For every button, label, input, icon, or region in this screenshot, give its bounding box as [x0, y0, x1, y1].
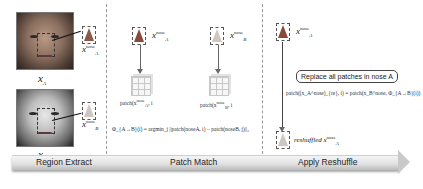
nose-a-shape — [84, 28, 94, 41]
stage-label-patch-match: Patch Match — [170, 157, 217, 167]
reshuffle-nose-source — [276, 23, 290, 41]
nose-a-label: xnoseA — [82, 44, 98, 56]
face-a-mouth — [38, 55, 52, 57]
nose-b-to-patch-arrow — [218, 45, 219, 70]
face-image-b — [16, 89, 74, 147]
face-b-mouth — [38, 132, 52, 134]
stage-divider-2 — [262, 4, 263, 154]
face-b-nose-region — [37, 108, 55, 134]
patch-match-nose-b-shape — [212, 29, 222, 42]
reshuffle-arrow — [282, 42, 283, 128]
replace-patches-box: Replace all patches in nose A — [296, 70, 398, 83]
patch-grid-b — [209, 76, 229, 96]
patch-a-label: patch(xnoseA, i — [120, 98, 153, 108]
patch-match-nose-a — [132, 27, 146, 45]
reshuffled-nose-label: reshuffled xnoseA — [294, 135, 339, 146]
patch-match-nose-a-shape — [134, 29, 144, 42]
face-image-a — [16, 12, 74, 70]
reshuffled-nose — [276, 131, 290, 149]
patch-grid-a — [131, 76, 151, 96]
nose-b-crop — [82, 102, 96, 120]
face-a-nose-region — [37, 33, 55, 57]
patch-match-nose-a-label: xnoseA — [152, 30, 168, 42]
patch-match-nose-b — [210, 27, 224, 45]
nose-b-label: xnoseB — [82, 119, 98, 131]
reshuffled-nose-shape — [278, 133, 288, 146]
patch-match-formula: Φ_{A→B}(i) = argmin_j ||patch(noseA, i) … — [112, 126, 249, 132]
face-a-label: xA — [38, 72, 46, 86]
nose-a-crop — [82, 26, 96, 44]
stage-divider-1 — [106, 4, 107, 154]
face-b-left-eye — [29, 112, 37, 115]
reshuffle-nose-source-shape — [278, 25, 288, 38]
patch-match-nose-b-label: xnoseB — [230, 30, 246, 42]
reshuffle-formula: patch((x_A^nose)_{re}, i) = patch(x_B^no… — [286, 90, 420, 96]
pipeline-arrow-head — [398, 150, 410, 174]
reshuffle-nose-source-label: xnoseA — [296, 26, 312, 38]
stage-label-region-extract: Region Extract — [36, 157, 92, 167]
nose-b-shape — [84, 104, 94, 117]
nose-a-to-patch-arrow — [140, 45, 141, 70]
stage-label-apply-reshuffle: Apply Reshuffle — [298, 157, 357, 167]
patch-b-label: patch(xnoseB, i — [200, 100, 232, 110]
